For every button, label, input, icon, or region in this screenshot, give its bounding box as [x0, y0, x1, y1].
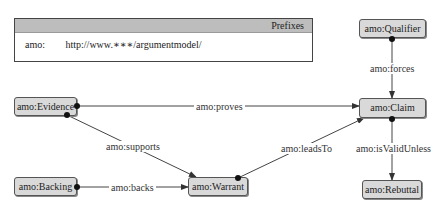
prefix-uri: http://www.∗∗∗/argumentmodel/	[66, 39, 202, 50]
prefixes-title: Prefixes	[15, 19, 312, 33]
node-qualifier[interactable]: amo:Qualifier	[359, 19, 426, 38]
edge-label-proves: amo:proves	[194, 101, 245, 112]
prefixes-panel: Prefixes amo: http://www.∗∗∗/argumentmod…	[14, 18, 313, 62]
node-rebuttal[interactable]: amo:Rebuttal	[362, 180, 422, 199]
edge-label-supports: amo:supports	[104, 141, 162, 152]
node-warrant[interactable]: amo:Warrant	[188, 177, 248, 196]
node-evidence[interactable]: amo:Evidence	[14, 97, 77, 116]
node-claim[interactable]: amo:Claim	[359, 98, 426, 118]
edge-label-forces: amo:forces	[368, 63, 416, 74]
edge-label-backs: amo:backs	[109, 182, 156, 193]
prefix-entry: amo: http://www.∗∗∗/argumentmodel/	[25, 39, 201, 50]
edge-label-isvalidunless: amo:isValidUnless	[354, 143, 433, 154]
prefix-key: amo:	[25, 39, 63, 50]
edge-label-leadsto: amo:leadsTo	[279, 143, 334, 154]
node-backing[interactable]: amo:Backing	[14, 177, 77, 196]
